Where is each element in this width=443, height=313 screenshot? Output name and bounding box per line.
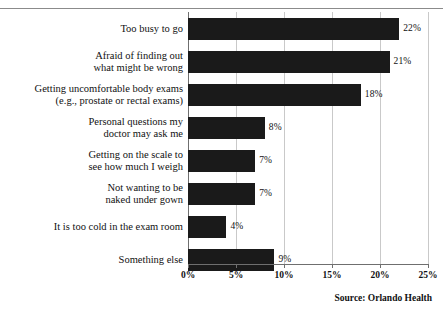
bar-row: 21% bbox=[188, 51, 428, 73]
x-tick-label: 0% bbox=[181, 270, 195, 281]
plot-area: 22%21%18%8%7%7%4%9% bbox=[188, 12, 428, 264]
bar-row: 8% bbox=[188, 117, 428, 139]
tick-mark-20% bbox=[380, 264, 381, 268]
x-axis-baseline bbox=[188, 264, 428, 265]
chart-figure: Too busy to goAfraid of finding out what… bbox=[0, 0, 443, 313]
category-label: Too busy to go bbox=[4, 23, 188, 35]
category-label: Afraid of finding out what might be wron… bbox=[4, 50, 188, 73]
bar-value-label: 7% bbox=[259, 189, 272, 199]
tick-mark-10% bbox=[284, 264, 285, 268]
x-axis-tick-labels: 0%5%10%15%20%25% bbox=[188, 270, 428, 284]
bar-value-label: 22% bbox=[403, 24, 421, 34]
bar bbox=[188, 249, 274, 271]
bar-value-label: 7% bbox=[259, 156, 272, 166]
bar-value-label: 18% bbox=[365, 90, 383, 100]
tick-mark-25% bbox=[428, 264, 429, 268]
gridline-25% bbox=[428, 12, 429, 264]
bar-value-label: 9% bbox=[278, 255, 291, 265]
bar bbox=[188, 18, 399, 40]
category-label: Getting uncomfortable body exams (e.g., … bbox=[4, 83, 188, 106]
bar bbox=[188, 183, 255, 205]
source-note: Source: Orlando Health bbox=[335, 292, 432, 304]
tick-mark-5% bbox=[236, 264, 237, 268]
category-axis-labels: Too busy to goAfraid of finding out what… bbox=[0, 12, 188, 264]
category-label: Personal questions my doctor may ask me bbox=[4, 116, 188, 139]
bar-value-label: 21% bbox=[394, 57, 412, 67]
bar-row: 7% bbox=[188, 150, 428, 172]
x-tick-label: 20% bbox=[371, 270, 390, 281]
category-label: Something else bbox=[4, 254, 188, 266]
top-divider-rule bbox=[0, 8, 443, 9]
category-label: Not wanting to be naked under gown bbox=[4, 182, 188, 205]
bar bbox=[188, 216, 226, 238]
bar bbox=[188, 117, 265, 139]
x-tick-label: 15% bbox=[323, 270, 342, 281]
x-tick-label: 25% bbox=[419, 270, 438, 281]
bar-row: 18% bbox=[188, 84, 428, 106]
category-label: It is too cold in the exam room bbox=[4, 221, 188, 233]
bar bbox=[188, 150, 255, 172]
bar-value-label: 8% bbox=[269, 123, 282, 133]
bar bbox=[188, 51, 390, 73]
category-label: Getting on the scale to see how much I w… bbox=[4, 149, 188, 172]
bar-row: 4% bbox=[188, 216, 428, 238]
bar bbox=[188, 84, 361, 106]
x-tick-label: 10% bbox=[275, 270, 294, 281]
bar-row: 22% bbox=[188, 18, 428, 40]
x-tick-label: 5% bbox=[229, 270, 243, 281]
tick-mark-0% bbox=[188, 264, 189, 268]
bar-row: 9% bbox=[188, 249, 428, 271]
bar-value-label: 4% bbox=[230, 222, 243, 232]
tick-mark-15% bbox=[332, 264, 333, 268]
bar-row: 7% bbox=[188, 183, 428, 205]
